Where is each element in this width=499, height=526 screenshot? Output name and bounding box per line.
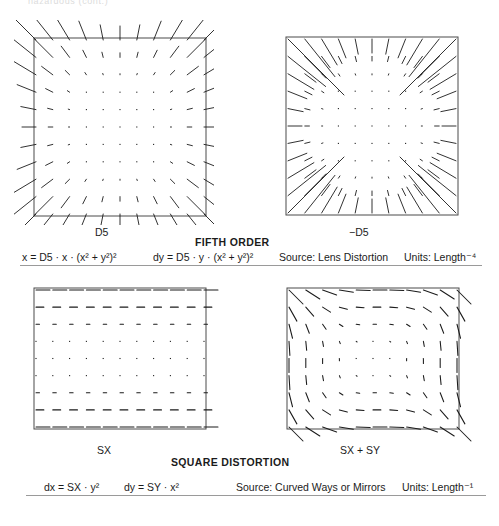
- chart-panel-neg-d5: [268, 19, 473, 224]
- quiver-plot-sx: [14, 278, 219, 442]
- distortion-reference-page: hazardous (cont.) D5 −D5 FIFTH ORDER x =…: [0, 0, 499, 526]
- source-square-distortion: Source: Curved Ways or Mirrors: [236, 481, 386, 493]
- source-fifth-order: Source: Lens Distortion: [279, 251, 388, 263]
- quiver-plot-d5: [14, 20, 214, 225]
- panel-label-sx-sy: SX + SY: [340, 444, 380, 456]
- quiver-plot-neg-d5: [268, 19, 473, 224]
- cropped-header-text: hazardous (cont.): [28, 0, 208, 6]
- chart-panel-sx-sy: [268, 276, 478, 442]
- section-title-square-distortion: SQUARE DISTORTION: [171, 456, 289, 468]
- panel-label-sx: SX: [97, 444, 111, 456]
- formula-dy-square-distortion: dy = SY · x²: [124, 481, 179, 493]
- quiver-plot-sx-sy: [268, 276, 478, 442]
- section-divider-square-distortion: [26, 495, 486, 496]
- formula-dy-fifth-order: dy = D5 · y · (x² + y²)²: [153, 251, 253, 263]
- units-square-distortion: Units: Length⁻¹: [402, 481, 473, 493]
- chart-panel-sx: [14, 278, 219, 442]
- formula-dx-fifth-order: x = D5 · x · (x² + y²)²: [22, 251, 117, 263]
- chart-panel-d5: [14, 20, 214, 225]
- panel-label-d5: D5: [95, 226, 108, 238]
- section-title-fifth-order: FIFTH ORDER: [195, 236, 269, 248]
- units-fifth-order: Units: Length⁻⁴: [404, 251, 476, 263]
- formula-dx-square-distortion: dx = SX · y²: [44, 481, 99, 493]
- panel-label-neg-d5: −D5: [349, 226, 369, 238]
- section-divider-fifth-order: [20, 265, 482, 266]
